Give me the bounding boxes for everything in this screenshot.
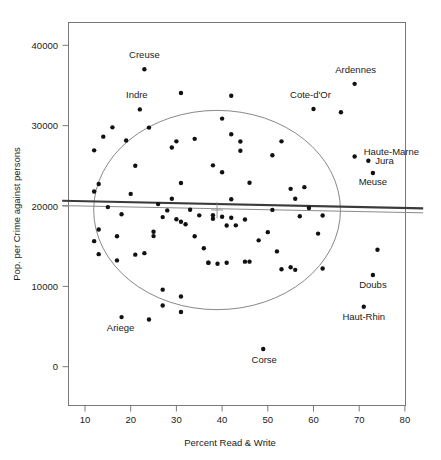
- data-point: [220, 116, 224, 120]
- data-point: [142, 67, 146, 71]
- data-point: [229, 216, 233, 220]
- data-point: [206, 261, 210, 265]
- data-point: [170, 145, 174, 149]
- point-label-cote-d-or: Cote-d'Or: [290, 89, 331, 100]
- x-tick-label: 30: [171, 414, 182, 425]
- point-label-ariege: Ariege: [107, 322, 134, 333]
- data-point: [174, 139, 178, 143]
- x-axis-title: Percent Read & Write: [184, 437, 276, 448]
- data-point: [238, 149, 242, 153]
- data-point: [234, 223, 238, 227]
- data-point: [106, 205, 110, 209]
- data-point: [197, 213, 201, 217]
- data-point: [270, 208, 274, 212]
- data-point: [92, 189, 96, 193]
- data-point: [142, 251, 146, 255]
- data-point: [211, 217, 215, 221]
- data-point: [160, 287, 164, 291]
- data-point: [375, 248, 379, 252]
- data-point: [220, 215, 224, 219]
- x-tick-label: 80: [400, 414, 411, 425]
- data-point: [298, 214, 302, 218]
- data-point: [311, 107, 315, 111]
- point-label-meuse: Meuse: [359, 176, 388, 187]
- data-point: [224, 261, 228, 265]
- data-point: [179, 310, 183, 314]
- data-point: [97, 252, 101, 256]
- x-tick-label: 20: [125, 414, 136, 425]
- data-point: [371, 273, 375, 277]
- data-point: [179, 181, 183, 185]
- data-point: [92, 148, 96, 152]
- data-point: [275, 249, 279, 253]
- point-label-corse: Corse: [252, 354, 277, 365]
- data-point: [302, 185, 306, 189]
- point-label-jura: Jura: [375, 155, 394, 166]
- y-tick-label: 0: [53, 361, 58, 372]
- data-point: [151, 230, 155, 234]
- data-point: [243, 259, 247, 263]
- data-point: [229, 132, 233, 136]
- data-point: [316, 231, 320, 235]
- data-point: [174, 217, 178, 221]
- data-point: [147, 317, 151, 321]
- data-point: [138, 107, 142, 111]
- data-point: [129, 192, 133, 196]
- data-point: [371, 171, 375, 175]
- data-point: [170, 196, 174, 200]
- point-label-doubs: Doubs: [359, 279, 387, 290]
- x-tick-label: 70: [354, 414, 365, 425]
- data-point: [188, 208, 192, 212]
- point-label-haut-rhin: Haut-Rhin: [342, 311, 385, 322]
- data-point: [97, 182, 101, 186]
- data-point: [110, 125, 114, 129]
- data-point: [352, 82, 356, 86]
- data-point: [92, 239, 96, 243]
- data-point: [192, 234, 196, 238]
- data-point: [229, 94, 233, 98]
- point-label-indre: Indre: [126, 89, 148, 100]
- data-point: [224, 223, 228, 227]
- x-tick-label: 10: [80, 414, 91, 425]
- data-point: [97, 227, 101, 231]
- data-point: [151, 234, 155, 238]
- data-point: [101, 134, 105, 138]
- data-point: [247, 259, 251, 263]
- data-point: [179, 294, 183, 298]
- data-point: [366, 159, 370, 163]
- data-point: [229, 197, 233, 201]
- data-point: [183, 222, 187, 226]
- x-tick-label: 50: [263, 414, 274, 425]
- data-point: [156, 202, 160, 206]
- y-tick-label: 20000: [32, 201, 58, 212]
- data-point: [279, 267, 283, 271]
- data-point: [119, 212, 123, 216]
- data-point: [160, 215, 164, 219]
- scatter-plot-figure: 010000200003000040000 1020304050607080 C…: [0, 0, 441, 460]
- data-point: [339, 110, 343, 114]
- data-point: [115, 258, 119, 262]
- data-point: [124, 138, 128, 142]
- data-point: [165, 208, 169, 212]
- data-point: [179, 91, 183, 95]
- data-point: [320, 266, 324, 270]
- data-point: [115, 234, 119, 238]
- data-point: [266, 230, 270, 234]
- data-point: [288, 265, 292, 269]
- data-point: [320, 213, 324, 217]
- data-point: [179, 220, 183, 224]
- data-point: [238, 139, 242, 143]
- data-point: [133, 163, 137, 167]
- data-point: [202, 246, 206, 250]
- data-point: [192, 137, 196, 141]
- data-point: [293, 268, 297, 272]
- data-point: [247, 180, 251, 184]
- y-tick-label: 30000: [32, 120, 58, 131]
- y-tick-label: 40000: [32, 40, 58, 51]
- data-point: [261, 347, 265, 351]
- data-point: [307, 206, 311, 210]
- data-point: [362, 305, 366, 309]
- x-tick-label: 60: [308, 414, 319, 425]
- data-point: [133, 252, 137, 256]
- data-point: [288, 187, 292, 191]
